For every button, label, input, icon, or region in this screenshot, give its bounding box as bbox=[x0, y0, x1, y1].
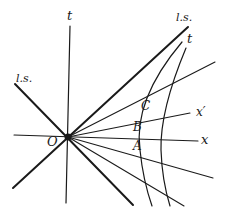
x-prime-axis bbox=[68, 113, 190, 137]
origin-label: O bbox=[47, 134, 58, 149]
point-label-a: A bbox=[132, 139, 142, 153]
light-signal-line-left bbox=[15, 84, 133, 205]
t-axis-label: t bbox=[67, 8, 73, 23]
t-axis bbox=[66, 26, 70, 203]
point-label-c: C bbox=[141, 99, 150, 113]
x-prime-axis-label: x′ bbox=[196, 105, 206, 119]
light-signal-label-left: l.s. bbox=[16, 72, 32, 85]
spacetime-diagram: t l.s. t l.s. C x′ B O x A bbox=[0, 0, 226, 220]
t-prime-curve-label: t bbox=[187, 31, 193, 46]
x-axis-label: x bbox=[201, 132, 209, 147]
x-axis bbox=[14, 135, 198, 141]
light-signal-label-right: l.s. bbox=[176, 11, 192, 24]
hyperbola-outer bbox=[161, 48, 186, 206]
point-label-b: B bbox=[132, 120, 142, 134]
origin-point bbox=[65, 134, 72, 141]
